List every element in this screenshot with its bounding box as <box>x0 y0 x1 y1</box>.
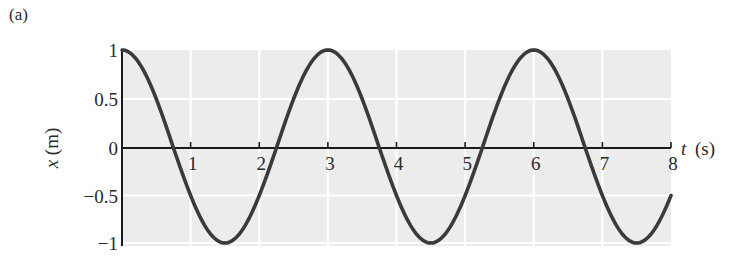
x-tick-label: 1 <box>188 153 198 174</box>
y-tick-label: 0.5 <box>94 89 118 110</box>
y-axis-label-unit: (m) <box>41 128 63 160</box>
chart: (a) 12345678 10.50−0.5−1 t (s) x (m) <box>0 0 754 268</box>
x-tick-label: 3 <box>325 153 335 174</box>
y-tick-label: 1 <box>109 40 119 61</box>
y-axis-label: x (m) <box>41 128 63 170</box>
x-tick-label: 6 <box>531 153 541 174</box>
x-axis-label: t (s) <box>681 138 715 160</box>
x-tick-label: 7 <box>600 153 610 174</box>
x-axis-label-unit: (s) <box>695 138 715 160</box>
x-tick-label: 5 <box>462 153 472 174</box>
y-tick-label: −1 <box>98 233 118 254</box>
x-tick-label: 8 <box>668 153 678 174</box>
x-tick-label: 2 <box>257 153 267 174</box>
x-tick-label: 4 <box>394 153 404 174</box>
y-tick-label: 0 <box>109 138 119 159</box>
x-axis-label-variable: t <box>681 138 687 159</box>
y-tick-label: −0.5 <box>84 186 118 207</box>
panel-label: (a) <box>9 5 28 24</box>
y-axis-ticks: 10.50−0.5−1 <box>84 40 118 254</box>
